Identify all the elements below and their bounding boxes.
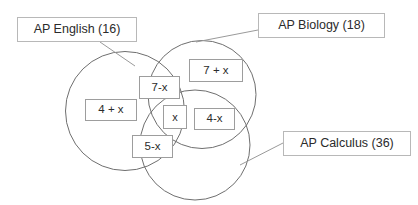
- region-label-biology-calculus: 4-x: [194, 108, 235, 130]
- region-label-english-only: 4 + x: [85, 99, 137, 121]
- leader-line-ap-biology: [196, 30, 258, 42]
- label-ap-biology: AP Biology (18): [258, 13, 385, 38]
- leader-line-ap-calculus: [240, 143, 283, 165]
- label-ap-english: AP English (16): [17, 17, 137, 42]
- venn-diagram-canvas: AP English (16) AP Biology (18) AP Calcu…: [0, 0, 418, 205]
- region-label-english-calculus: 5-x: [132, 135, 173, 158]
- leader-line-ap-english: [100, 42, 135, 66]
- region-label-all-three: x: [163, 105, 187, 129]
- region-label-english-biology: 7-x: [139, 76, 180, 99]
- label-ap-calculus: AP Calculus (36): [283, 131, 411, 156]
- region-label-biology-only: 7 + x: [189, 59, 243, 82]
